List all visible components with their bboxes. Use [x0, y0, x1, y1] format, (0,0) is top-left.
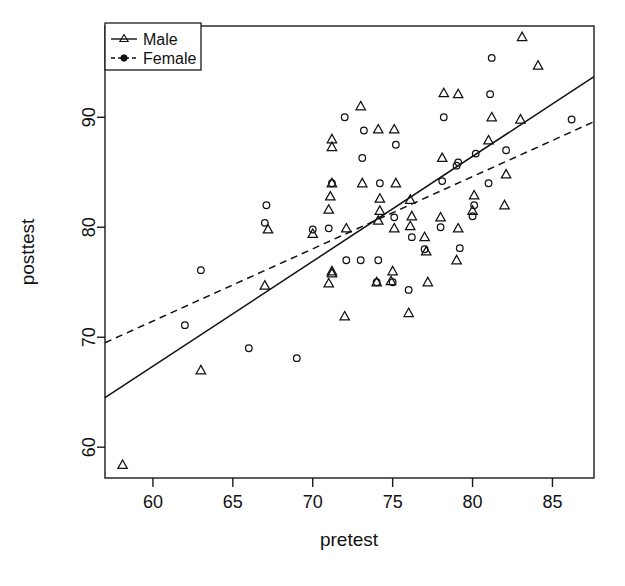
- x-tick-label: 70: [303, 492, 323, 512]
- x-tick-label: 65: [223, 492, 243, 512]
- scatter-plot-figure: 60708090 606570758085 Male Female pretes…: [0, 0, 625, 586]
- y-axis-title: posttest: [17, 218, 38, 285]
- legend-label-female: Female: [143, 50, 196, 67]
- plot-canvas: 60708090 606570758085 Male Female pretes…: [0, 0, 625, 586]
- x-tick-label: 60: [143, 492, 163, 512]
- x-tick-label: 75: [383, 492, 403, 512]
- legend[interactable]: Male Female: [105, 23, 201, 70]
- circle-icon: [121, 55, 127, 61]
- y-tick-label: 90: [79, 107, 99, 127]
- x-axis-title: pretest: [320, 529, 379, 550]
- y-tick-label: 80: [79, 217, 99, 237]
- legend-label-male: Male: [143, 31, 178, 48]
- y-tick-label: 60: [79, 437, 99, 457]
- y-tick-label: 70: [79, 327, 99, 347]
- x-tick-label: 85: [542, 492, 562, 512]
- x-tick-label: 80: [463, 492, 483, 512]
